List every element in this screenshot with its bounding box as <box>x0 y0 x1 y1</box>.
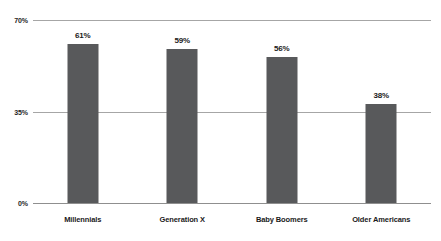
category-label-generation-x: Generation X <box>160 215 205 224</box>
bar-value-generation-x: 59% <box>174 36 190 45</box>
category-label-baby-boomers: Baby Boomers <box>256 215 308 224</box>
bar-generation-x[interactable] <box>167 49 198 203</box>
bar-value-older-americans: 38% <box>373 91 389 100</box>
category-label-millennials: Millennials <box>64 215 101 224</box>
plot-area: 70% 35% 0% 61% Millennials 59% Generatio… <box>33 20 431 203</box>
bar-baby-boomers[interactable] <box>266 57 297 203</box>
bar-slot-millennials: 61% Millennials <box>33 20 133 203</box>
bar-slot-baby-boomers: 56% Baby Boomers <box>232 20 332 203</box>
bar-value-millennials: 61% <box>75 31 91 40</box>
y-axis-tick-label-35: 35% <box>14 108 28 115</box>
y-axis-tick-label-0: 0% <box>18 200 28 207</box>
bar-slot-older-americans: 38% Older Americans <box>332 20 432 203</box>
bar-older-americans[interactable] <box>366 104 397 203</box>
bar-value-baby-boomers: 56% <box>274 44 290 53</box>
category-label-older-americans: Older Americans <box>352 215 410 224</box>
bar-chart: 70% 35% 0% 61% Millennials 59% Generatio… <box>0 0 441 241</box>
bar-slot-generation-x: 59% Generation X <box>133 20 233 203</box>
gridline-0-baseline: 0% <box>33 203 431 204</box>
y-axis-tick-label-70: 70% <box>14 17 28 24</box>
bar-millennials[interactable] <box>67 44 98 204</box>
